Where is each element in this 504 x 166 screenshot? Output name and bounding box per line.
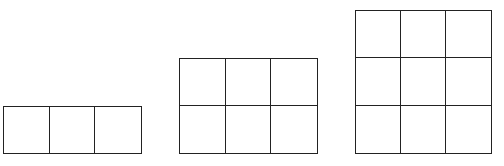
grid-cell	[401, 106, 446, 153]
grid-cell	[401, 58, 446, 105]
grid-cell	[356, 58, 401, 105]
grid-cell	[95, 107, 141, 153]
grid-2x3	[179, 58, 318, 154]
grid-cell	[180, 106, 226, 153]
grid-cell	[356, 11, 401, 58]
grid-cell	[271, 59, 317, 106]
grid-1x3	[3, 106, 142, 154]
grid-cell	[401, 11, 446, 58]
grid-cell	[226, 59, 272, 106]
grid-cell	[4, 107, 50, 153]
grid-cell	[446, 11, 491, 58]
grid-cell	[271, 106, 317, 153]
grid-cell	[180, 59, 226, 106]
grid-cell	[446, 106, 491, 153]
grid-3x3	[355, 10, 492, 154]
grid-cell	[356, 106, 401, 153]
grid-cell	[446, 58, 491, 105]
grid-cell	[226, 106, 272, 153]
grid-cell	[50, 107, 96, 153]
